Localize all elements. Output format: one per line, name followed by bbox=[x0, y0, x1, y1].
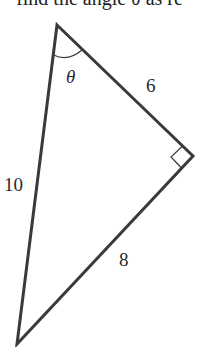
angle-label-theta: θ bbox=[66, 66, 75, 87]
side-label-8: 8 bbox=[119, 249, 129, 270]
side-label-6: 6 bbox=[146, 75, 156, 96]
side-label-10: 10 bbox=[4, 174, 23, 195]
right-angle-marker bbox=[171, 146, 183, 168]
triangle-outline bbox=[17, 25, 193, 344]
angle-arc-theta bbox=[54, 50, 82, 58]
triangle-diagram: θ 6 10 8 bbox=[0, 0, 199, 347]
